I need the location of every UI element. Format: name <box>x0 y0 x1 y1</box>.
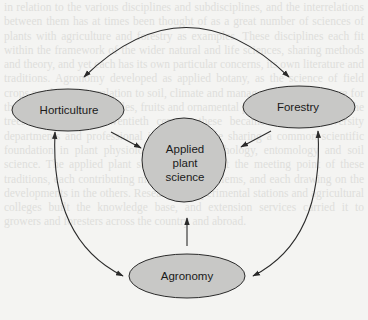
edge-forestry-applied <box>241 131 271 147</box>
node-agronomy: Agronomy <box>129 254 245 298</box>
node-horticulture-label: Horticulture <box>40 104 99 116</box>
center-label-line-2: plant <box>173 157 199 169</box>
node-applied-plant-science: Applied plant science <box>142 118 226 202</box>
center-label-line-3: science <box>166 171 205 183</box>
node-forestry-label: Forestry <box>277 101 319 113</box>
node-horticulture: Horticulture <box>12 89 124 131</box>
node-agronomy-label: Agronomy <box>161 270 214 282</box>
edge-horticulture-agronomy <box>55 132 123 276</box>
edge-horticulture-forestry <box>84 28 289 78</box>
edge-horticulture-applied <box>111 132 141 148</box>
concept-diagram: Horticulture Forestry Applied plant scie… <box>0 0 368 320</box>
node-forestry: Forestry <box>243 86 355 128</box>
edge-forestry-agronomy <box>253 131 318 276</box>
center-label-line-1: Applied <box>166 143 204 155</box>
